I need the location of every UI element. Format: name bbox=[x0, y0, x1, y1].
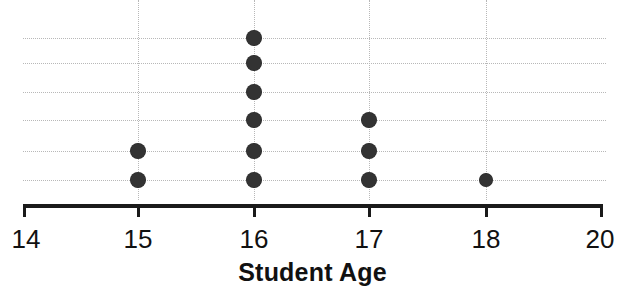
x-tick-label-16: 16 bbox=[240, 226, 269, 252]
gridline-horizontal-1 bbox=[23, 38, 606, 39]
x-tick-label-18: 18 bbox=[472, 226, 501, 252]
data-point bbox=[247, 144, 262, 159]
gridline-horizontal-3 bbox=[23, 92, 606, 93]
gridline-horizontal-4 bbox=[23, 120, 606, 121]
data-point bbox=[247, 113, 262, 128]
data-point bbox=[131, 173, 146, 188]
gridline-vertical-17 bbox=[369, 0, 370, 200]
x-axis-right-cap bbox=[600, 204, 603, 217]
data-point bbox=[247, 173, 262, 188]
gridline-horizontal-5 bbox=[23, 151, 606, 152]
data-point bbox=[362, 144, 377, 159]
x-tick-label-20: 20 bbox=[586, 226, 615, 252]
x-tick-label-15: 15 bbox=[124, 226, 153, 252]
x-axis-title: Student Age bbox=[0, 258, 625, 287]
x-axis-tick-18 bbox=[485, 204, 488, 217]
data-point bbox=[247, 31, 262, 46]
gridline-vertical-15 bbox=[138, 0, 139, 200]
data-point bbox=[247, 85, 262, 100]
gridline-horizontal-6 bbox=[23, 180, 606, 181]
gridline-horizontal-2 bbox=[23, 63, 606, 64]
x-tick-label-14: 14 bbox=[12, 226, 41, 252]
x-axis-tick-16 bbox=[253, 204, 256, 217]
data-point bbox=[131, 144, 146, 159]
x-axis-tick-17 bbox=[368, 204, 371, 217]
data-point bbox=[480, 174, 493, 187]
data-point bbox=[362, 113, 377, 128]
x-axis-tick-15 bbox=[137, 204, 140, 217]
x-axis-left-cap bbox=[23, 204, 26, 217]
data-point bbox=[247, 56, 262, 71]
x-axis-line bbox=[23, 204, 603, 208]
dot-plot-chart: 14 15 16 17 18 20 Student Age bbox=[0, 0, 625, 288]
gridline-vertical-18 bbox=[486, 0, 487, 200]
x-tick-label-17: 17 bbox=[355, 226, 384, 252]
data-point bbox=[362, 173, 377, 188]
